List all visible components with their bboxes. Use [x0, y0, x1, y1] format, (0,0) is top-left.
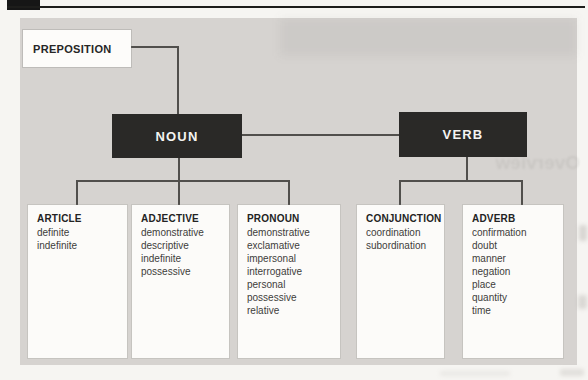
- scan-artifact: [578, 295, 587, 309]
- chapter-tab-square: [7, 0, 40, 10]
- category-item: personal: [247, 278, 334, 291]
- category-box-article: ARTICLE definite indefinite: [28, 205, 127, 358]
- category-title: CONJUNCTION: [366, 213, 438, 224]
- noun-node: NOUN: [112, 114, 242, 158]
- category-item: confirmation: [472, 226, 557, 239]
- category-box-pronoun: PRONOUN demonstrative exclamative impers…: [238, 205, 340, 358]
- category-item: possessive: [141, 265, 223, 278]
- scan-artifact: [560, 369, 584, 376]
- category-item: demonstrative: [247, 226, 334, 239]
- scan-artifact: [280, 18, 577, 56]
- preposition-node-label: PREPOSITION: [33, 43, 111, 55]
- category-item: interrogative: [247, 265, 334, 278]
- header-rule: [7, 6, 585, 8]
- noun-node-label: NOUN: [155, 129, 198, 144]
- category-item: impersonal: [247, 252, 334, 265]
- category-box-adjective: ADJECTIVE demonstrative descriptive inde…: [132, 205, 229, 358]
- category-box-adverb: ADVERB confirmation doubt manner negatio…: [463, 205, 563, 358]
- category-item: possessive: [247, 291, 334, 304]
- category-title: ARTICLE: [37, 213, 121, 224]
- category-item: coordination: [366, 226, 438, 239]
- connector-verb-down: [466, 157, 468, 182]
- category-item: descriptive: [141, 239, 223, 252]
- category-item: doubt: [472, 239, 557, 252]
- category-item: indefinite: [141, 252, 223, 265]
- connector-noun-branch-horizontal: [76, 180, 290, 182]
- category-item: negation: [472, 265, 557, 278]
- connector-drop-conjunction: [399, 180, 401, 205]
- connector-verb-branch-horizontal: [399, 180, 523, 182]
- connector-preposition-vertical: [177, 46, 179, 114]
- category-item: exclamative: [247, 239, 334, 252]
- category-item: relative: [247, 304, 334, 317]
- connector-drop-article: [76, 180, 78, 205]
- verb-node: VERB: [399, 112, 527, 157]
- preposition-node: PREPOSITION: [23, 30, 131, 67]
- connector-noun-verb: [242, 134, 399, 136]
- category-title: ADJECTIVE: [141, 213, 223, 224]
- category-title: PRONOUN: [247, 213, 334, 224]
- category-item: manner: [472, 252, 557, 265]
- connector-preposition-horizontal: [131, 46, 178, 48]
- connector-drop-adverb: [521, 180, 523, 205]
- category-item: demonstrative: [141, 226, 223, 239]
- category-item: subordination: [366, 239, 438, 252]
- scan-artifact: [440, 371, 510, 376]
- category-title: ADVERB: [472, 213, 557, 224]
- connector-drop-pronoun: [288, 180, 290, 205]
- category-item: quantity: [472, 291, 557, 304]
- category-item: definite: [37, 226, 121, 239]
- verb-node-label: VERB: [443, 127, 484, 142]
- category-item: indefinite: [37, 239, 121, 252]
- category-item: place: [472, 278, 557, 291]
- scanned-page: Overview PREPOSITION NOUN VERB ARTICLE d…: [0, 0, 588, 380]
- scan-artifact: [579, 225, 587, 241]
- category-box-conjunction: CONJUNCTION coordination subordination: [357, 205, 444, 358]
- category-item: time: [472, 304, 557, 317]
